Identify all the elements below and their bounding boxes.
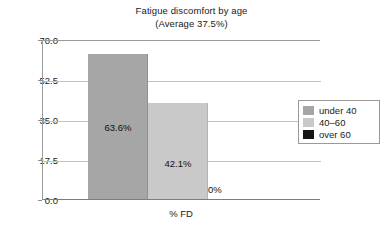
bar-value-40-60: 42.1% [148, 158, 208, 169]
bar-value-under-40: 63.6% [88, 122, 148, 133]
legend-label-over-60: over 60 [319, 129, 351, 140]
chart-legend: under 40 40–60 over 60 [298, 100, 380, 144]
legend-swatch-40-60 [303, 118, 314, 127]
x-axis-label: % FD [42, 208, 320, 219]
legend-label-40-60: 40–60 [319, 117, 345, 128]
chart-title: Fatigue discomfort by age (Average 37.5%… [0, 5, 383, 30]
bar-chart: Fatigue discomfort by age (Average 37.5%… [0, 0, 383, 232]
bar-value-over-60: 0% [208, 184, 254, 195]
chart-title-line1: Fatigue discomfort by age [136, 5, 248, 16]
legend-label-under-40: under 40 [319, 105, 357, 116]
y-tick-mark-0 [38, 200, 42, 201]
chart-title-line2: (Average 37.5%) [0, 18, 383, 31]
legend-item-over-60: over 60 [303, 128, 375, 140]
bar-40-60 [148, 103, 208, 199]
legend-item-under-40: under 40 [303, 104, 375, 116]
legend-item-40-60: 40–60 [303, 116, 375, 128]
legend-swatch-over-60 [303, 130, 314, 139]
plot-area: 63.6% 42.1% 0% [42, 40, 320, 200]
legend-swatch-under-40 [303, 106, 314, 115]
gridline-52-5 [43, 81, 321, 82]
